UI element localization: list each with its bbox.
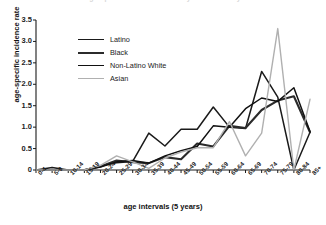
x-axis-tick-labels: 0-45-910-1415-1920-2425-2930-3435-3940-4… — [36, 172, 310, 202]
chart-legend: LatinoBlackNon-Latino WhiteAsian — [78, 33, 208, 85]
y-axis-title: age-specific incidence rate — [12, 0, 21, 115]
y-tick-label: 1.0 — [8, 123, 32, 131]
legend-item-black: Black — [78, 46, 208, 59]
legend-swatch — [78, 78, 104, 79]
legend-swatch — [78, 52, 104, 54]
legend-item-latino: Latino — [78, 33, 208, 46]
legend-item-non-latino-white: Non-Latino White — [78, 59, 208, 72]
legend-label: Non-Latino White — [110, 62, 166, 69]
y-tick-label: 0 — [8, 166, 32, 174]
y-tick-label: 0.5 — [8, 145, 32, 153]
legend-item-asian: Asian — [78, 72, 208, 85]
legend-swatch — [78, 65, 104, 66]
series-line-black — [36, 96, 310, 170]
legend-label: Black — [110, 49, 128, 56]
legend-label: Asian — [110, 75, 128, 82]
chart-figure: age-specific incidence rate by race/ethn… — [0, 0, 326, 225]
legend-label: Latino — [110, 36, 130, 43]
legend-swatch — [78, 39, 104, 40]
x-axis-title: age intervals (5 years) — [0, 202, 326, 211]
